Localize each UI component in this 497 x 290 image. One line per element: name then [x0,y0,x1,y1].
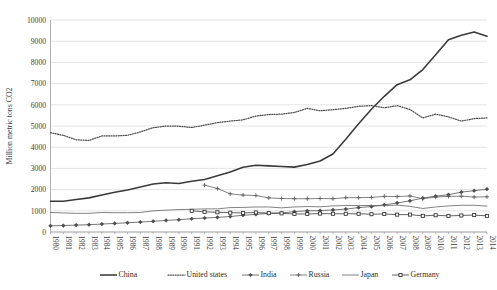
x-tick-label: 1999 [295,236,303,251]
marker-square [485,214,488,217]
x-tick-label: 2010 [436,236,444,251]
marker-square [229,211,232,214]
x-tick-label: 1985 [115,236,123,251]
marker-square [280,212,283,215]
x-tick-label: 2009 [423,236,431,251]
marker-square [216,211,219,214]
x-tick-label: 1993 [218,236,226,251]
marker-square [383,212,386,215]
marker-square [399,273,402,276]
marker-square [319,212,322,215]
y-tick-label: 8000 [31,58,46,67]
x-tick-label: 2006 [385,236,393,251]
marker-square [254,211,257,214]
y-tick-label: 3000 [31,164,46,173]
y-tick-label: 7000 [31,79,46,88]
y-axis-title-text: Million metric tons CO2 [5,87,14,164]
x-tick-label: 1997 [269,236,277,251]
x-tick-label: 1984 [102,236,110,251]
marker-square [331,212,334,215]
marker-square [357,212,360,215]
legend-label: United states [187,270,228,279]
marker-square [190,209,193,212]
x-tick-label: 2003 [346,236,354,251]
x-tick-label: 2008 [411,236,419,251]
marker-square [434,214,437,217]
x-tick-label: 2011 [449,236,457,251]
x-tick-label: 1980 [51,236,59,251]
marker-square [408,213,411,216]
x-tick-label: 2000 [308,236,316,251]
x-tick-label: 1998 [282,236,290,251]
x-tick-label: 2014 [488,236,496,251]
x-axis-tick-labels: 1980198119821983198419851986198719881989… [51,236,496,251]
x-tick-label: 1988 [154,236,162,251]
y-axis-title: Million metric tons CO2 [5,87,14,164]
marker-square [396,213,399,216]
marker-square [267,212,270,215]
x-tick-label: 2001 [321,236,329,251]
x-tick-label: 1989 [167,236,175,251]
x-tick-label: 2002 [334,236,342,251]
marker-square [460,214,463,217]
x-tick-label: 1996 [257,236,265,251]
x-tick-label: 1981 [64,236,72,251]
marker-square [421,214,424,217]
y-tick-label: 1000 [31,207,46,216]
legend-label: Japan [361,270,379,279]
y-tick-label: 10000 [27,16,46,25]
x-tick-label: 1987 [141,236,149,251]
chart-container: 0100020003000400050006000700080009000100… [0,0,497,290]
marker-square [447,214,450,217]
y-tick-label: 6000 [31,101,46,110]
y-tick-label: 0 [42,228,46,237]
marker-square [370,213,373,216]
marker-square [344,212,347,215]
x-tick-label: 2013 [475,236,483,251]
legend-label: Germany [411,270,440,279]
y-tick-label: 9000 [31,37,46,46]
x-tick-label: 2012 [462,236,470,251]
x-tick-label: 2005 [372,236,380,251]
legend-label: Russia [309,270,330,279]
x-tick-label: 2007 [398,236,406,251]
marker-square [473,213,476,216]
y-tick-label: 2000 [31,185,46,194]
marker-square [293,212,296,215]
x-tick-label: 2004 [359,236,367,251]
legend-label: China [119,270,138,279]
legend-label: India [261,270,278,279]
x-tick-label: 1986 [128,236,136,251]
x-tick-label: 1994 [231,236,239,251]
y-tick-label: 4000 [31,143,46,152]
marker-square [242,211,245,214]
marker-square [306,212,309,215]
x-tick-label: 1991 [192,236,200,251]
x-tick-label: 1995 [244,236,252,251]
x-tick-label: 1982 [77,236,85,251]
x-tick-label: 1992 [205,236,213,251]
x-tick-label: 1983 [90,236,98,251]
marker-square [203,210,206,213]
co2-emissions-line-chart: 0100020003000400050006000700080009000100… [0,0,497,290]
y-tick-label: 5000 [31,122,46,131]
x-tick-label: 1990 [179,236,187,251]
